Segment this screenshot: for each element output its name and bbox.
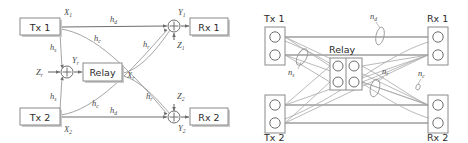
- adder-rx1: [168, 20, 180, 32]
- det-box-rx2[interactable]: Rx 2: [427, 95, 448, 143]
- det-box-rx1[interactable]: Rx 1: [427, 13, 448, 65]
- det-node-rx2-level2: [433, 118, 443, 128]
- det-node-relay-in2: [333, 77, 343, 87]
- box-rx2-label: Rx 2: [198, 112, 219, 123]
- channel-label-hd-top: hd: [110, 14, 117, 25]
- arrowhead-adder-rx1-a: [163, 24, 167, 28]
- level-mark-nc: [415, 83, 421, 90]
- det-box-rx2-label: Rx 2: [427, 132, 448, 143]
- channel-label-hc-bottom: hc: [92, 98, 99, 109]
- channel-label-hd-bottom: hd: [110, 105, 117, 116]
- adder-relay: [61, 66, 73, 78]
- box-rx2[interactable]: Rx 2: [190, 108, 230, 127]
- arrowhead-adder-rx2-a: [163, 115, 167, 119]
- link-tx1-relay: [60, 33, 62, 68]
- level-mark-nr: [368, 78, 381, 98]
- arrowhead-zr: [56, 70, 60, 74]
- det-node-relay-out1: [349, 61, 359, 71]
- det-box-tx2[interactable]: Tx 2: [263, 95, 285, 143]
- link-tx2-relay: [60, 77, 62, 110]
- box-tx2[interactable]: Tx 2: [20, 108, 62, 127]
- box-tx2-label: Tx 2: [29, 112, 51, 123]
- signal-label-z1: Z1: [177, 40, 185, 51]
- leader-nd: [376, 22, 380, 28]
- det-node-relay-in1: [333, 61, 343, 71]
- det-box-relay-label: Relay: [329, 44, 355, 55]
- adder-rx2: [168, 111, 180, 123]
- level-label-nr: nr: [382, 66, 389, 77]
- det-node-rx2-level1: [433, 100, 443, 110]
- arrowhead-z2: [172, 107, 176, 111]
- gaussian-model-diagram: Tx 1 Tx 2 Relay Rx 1 Rx 2 X1 X2: [0, 0, 234, 143]
- level-label-nc: nc: [418, 68, 425, 79]
- link-tx1-rx1-direct: [60, 26, 167, 27]
- leader-nc: [418, 79, 421, 84]
- signal-label-yr: Yr: [72, 55, 80, 66]
- arrowhead-relay-in: [78, 70, 82, 74]
- det-node-tx1-level2: [270, 50, 280, 60]
- signal-label-zr: Zr: [36, 67, 44, 78]
- box-relay[interactable]: Relay: [83, 63, 124, 83]
- signal-label-x1: X1: [63, 7, 72, 18]
- arrowhead-rx1-in: [185, 24, 189, 28]
- signal-label-y1: Y1: [178, 7, 186, 18]
- link-relay-rx1: [123, 30, 170, 73]
- figure-container: Tx 1 Tx 2 Relay Rx 1 Rx 2 X1 X2: [0, 0, 468, 143]
- det-box-relay[interactable]: Relay: [329, 44, 362, 90]
- channel-label-hs-bottom: hs: [50, 91, 56, 102]
- channel-label-hr-bottom: hr: [146, 91, 153, 102]
- arrowhead-z1: [172, 33, 176, 37]
- level-mark-ns: [294, 47, 310, 67]
- level-mark-nd: [374, 26, 386, 45]
- channel-label-hs-top: hs: [50, 42, 56, 53]
- signal-label-x2: X2: [63, 124, 72, 135]
- det-box-tx1-label: Tx 1: [263, 13, 285, 24]
- signal-label-y2: Y2: [178, 123, 186, 134]
- box-rx1-label: Rx 1: [198, 22, 219, 33]
- box-tx1[interactable]: Tx 1: [20, 18, 62, 37]
- box-relay-label: Relay: [89, 67, 115, 78]
- box-tx1-label: Tx 1: [29, 22, 51, 33]
- signal-label-z2: Z2: [177, 91, 185, 102]
- level-label-nd: nd: [370, 11, 377, 22]
- det-node-tx2-level2: [270, 118, 280, 128]
- det-node-tx2-level1: [270, 100, 280, 110]
- det-node-relay-out2: [349, 77, 359, 87]
- channel-label-hc-top: hc: [94, 33, 101, 44]
- deterministic-model-diagram: Tx 1 Tx 2 Relay Rx 1: [234, 0, 468, 143]
- det-node-tx1-level1: [270, 32, 280, 42]
- level-label-ns: ns: [288, 67, 294, 78]
- det-box-tx1[interactable]: Tx 1: [263, 13, 285, 65]
- det-node-rx1-level1: [433, 32, 443, 42]
- arrowhead-rx2-in: [185, 115, 189, 119]
- box-rx1[interactable]: Rx 1: [190, 18, 230, 37]
- channel-label-hr-top: hr: [143, 39, 150, 50]
- det-box-tx2-label: Tx 2: [263, 132, 285, 143]
- signal-label-xr: Xr: [126, 70, 135, 81]
- det-box-rx1-label: Rx 1: [427, 13, 448, 24]
- link-group-relay-rx-det: [362, 55, 428, 105]
- det-node-rx1-level2: [433, 50, 443, 60]
